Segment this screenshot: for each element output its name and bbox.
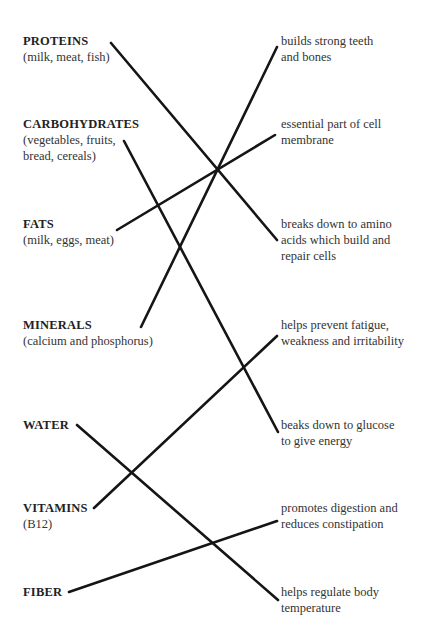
line-vitamins bbox=[94, 336, 277, 508]
function-line: helps regulate body bbox=[281, 584, 379, 600]
function-line: builds strong teeth bbox=[281, 33, 373, 49]
nutrient-sources: (milk, meat, fish) bbox=[23, 49, 110, 65]
nutrient-water: WATER bbox=[23, 417, 69, 433]
nutrient-name: VITAMINS bbox=[23, 500, 88, 516]
function-line: essential part of cell bbox=[281, 116, 381, 132]
function-glucose-energy: beaks down to glucose to give energy bbox=[281, 417, 395, 449]
function-line: membrane bbox=[281, 132, 381, 148]
nutrient-name: PROTEINS bbox=[23, 33, 110, 49]
line-fiber bbox=[69, 521, 277, 592]
nutrient-vitamins: VITAMINS (B12) bbox=[23, 500, 88, 532]
function-prevent-fatigue: helps prevent fatigue, weakness and irri… bbox=[281, 317, 404, 349]
function-teeth-bones: builds strong teeth and bones bbox=[281, 33, 373, 65]
nutrient-minerals: MINERALS (calcium and phosphorus) bbox=[23, 317, 153, 349]
function-line: beaks down to glucose bbox=[281, 417, 395, 433]
nutrient-fiber: FIBER bbox=[23, 584, 62, 600]
nutrient-carbohydrates: CARBOHYDRATES (vegetables, fruits, bread… bbox=[23, 116, 143, 164]
nutrient-sources: (B12) bbox=[23, 516, 88, 532]
function-line: acids which build and bbox=[281, 232, 392, 248]
line-water bbox=[77, 425, 278, 600]
nutrient-sources: (calcium and phosphorus) bbox=[23, 333, 153, 349]
function-line: reduces constipation bbox=[281, 516, 398, 532]
nutrient-name: FATS bbox=[23, 216, 114, 232]
function-line: repair cells bbox=[281, 248, 392, 264]
function-line: temperature bbox=[281, 600, 379, 616]
function-body-temperature: helps regulate body temperature bbox=[281, 584, 379, 616]
line-carbohydrates bbox=[124, 141, 278, 432]
nutrient-sources: (vegetables, fruits, bread, cereals) bbox=[23, 132, 143, 164]
nutrient-name: FIBER bbox=[23, 584, 62, 600]
nutrient-name: WATER bbox=[23, 417, 69, 433]
function-line: and bones bbox=[281, 49, 373, 65]
function-cell-membrane: essential part of cell membrane bbox=[281, 116, 381, 148]
nutrient-name: CARBOHYDRATES bbox=[23, 116, 143, 132]
function-amino-acids: breaks down to amino acids which build a… bbox=[281, 216, 392, 264]
function-digestion: promotes digestion and reduces constipat… bbox=[281, 500, 398, 532]
nutrient-proteins: PROTEINS (milk, meat, fish) bbox=[23, 33, 110, 65]
function-line: breaks down to amino bbox=[281, 216, 392, 232]
function-line: to give energy bbox=[281, 433, 395, 449]
nutrient-sources: (milk, eggs, meat) bbox=[23, 232, 114, 248]
nutrient-fats: FATS (milk, eggs, meat) bbox=[23, 216, 114, 248]
function-line: helps prevent fatigue, bbox=[281, 317, 404, 333]
nutrient-name: MINERALS bbox=[23, 317, 153, 333]
line-minerals bbox=[141, 47, 277, 327]
function-line: promotes digestion and bbox=[281, 500, 398, 516]
function-line: weakness and irritability bbox=[281, 333, 404, 349]
